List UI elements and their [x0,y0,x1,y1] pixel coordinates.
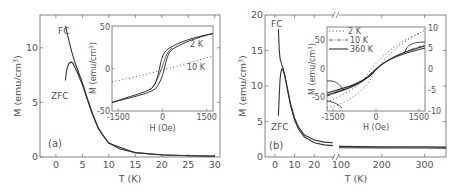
panel-a-xlabel: T (K) [118,173,141,184]
panel-b-fc-curve-high-t [339,146,446,147]
inset-a-xlabel: H (Oe) [149,124,175,133]
panel-b-xtick-label: 10 [289,159,301,170]
inset-b-xtick-label: -1500 [321,113,344,122]
panel-a-xtick-label: 25 [182,159,194,170]
panel-a: 0 5 10 15 20 25 30 0 5 10 T (K) M (emu/c… [12,15,221,184]
inset-a-xtick-label: 1500 [197,113,217,122]
panel-a-xtick-label: 20 [156,159,168,170]
panel-b-ytick-label: 5 [257,116,263,127]
panel-b-xlabel: T (K) [344,173,367,184]
panel-b-ylabel: M (emu/cm3) [237,55,249,117]
panel-b-fc-label: FC [271,19,282,29]
inset-b-ytick-label-right: -5 [428,86,436,95]
panel-a-panel-label: (a) [48,138,62,149]
panel-a-zfc-label: ZFC [51,91,69,101]
inset-a-ytick-label: 50 [100,23,110,32]
inset-b-xtick-label: 0 [373,113,378,122]
panel-b-xtick-label: 0 [272,159,278,170]
inset-b-ytick-label-right: -10 [428,107,441,116]
panel-b-xtick-label: 100 [332,159,350,170]
panel-b-zfc-label: ZFC [271,122,289,132]
inset-a-xtick-label: -1500 [107,113,130,122]
inset-a-10k-label: 10 K [187,63,206,72]
panel-b-ytick-label: 20 [251,9,263,20]
panel-a-xtick-label: 15 [129,159,141,170]
figure: 0 5 10 15 20 25 30 0 5 10 T (K) M (emu/c… [0,0,458,190]
inset-b-xtick-label: 1500 [409,113,429,122]
inset-b-ytick-label-left: 0 [320,65,325,74]
panel-b-xtick-label: 300 [416,159,434,170]
panel-a-inset: -1500 0 1500 50 0 -50 H (Oe) M (emu/cm3)… [88,23,217,133]
panel-a-xtick-label: 30 [209,159,221,170]
legend-10k: 10 K [350,36,369,45]
panel-b-zfc-curve [278,69,333,146]
panel-a-xtick-label: 0 [53,159,59,170]
legend-360k: 360 K [350,45,374,54]
inset-b-xlabel: H (Oe) [363,123,389,132]
inset-a-ytick-label: 0 [105,65,110,74]
panel-a-ytick-label: 0 [32,151,38,162]
inset-b-ylabel: M (emu/cm3) [307,43,317,95]
inset-b-ytick-label-right: 5 [428,44,433,53]
panel-b-ytick-label: 0 [257,151,263,162]
panel-b: 0 10 20 100 200 300 0 5 10 15 20 T (K) M… [237,9,447,184]
panel-b-inset: -1500 0 1500 50 0 -50 10 5 0 -5 -10 H (O… [307,24,441,132]
panel-a-fc-label: FC [58,26,69,36]
inset-b-ytick-label-right: 10 [428,24,438,33]
panel-a-ylabel: M (emu/cm3) [12,55,24,117]
panel-a-ytick-label: 10 [26,42,38,53]
panel-b-xtick-label: 20 [308,159,320,170]
panel-b-panel-label: (b) [269,140,283,151]
panel-a-xtick-label: 10 [103,159,115,170]
inset-a-ylabel: M (emu/cm3) [88,42,98,94]
inset-b-ytick-label-right: 0 [428,65,433,74]
panel-b-ytick-label: 10 [251,80,263,91]
panel-a-xtick-label: 5 [79,159,85,170]
panel-a-ytick-label: 5 [32,97,38,108]
inset-a-ytick-label: -50 [97,107,110,116]
inset-a-2k-label: 2 K [190,40,204,49]
panel-b-xtick-label: 200 [373,159,391,170]
panel-b-ytick-label: 15 [251,45,263,56]
legend-2k: 2 K [348,27,362,36]
inset-a-xtick-label: 0 [160,113,165,122]
